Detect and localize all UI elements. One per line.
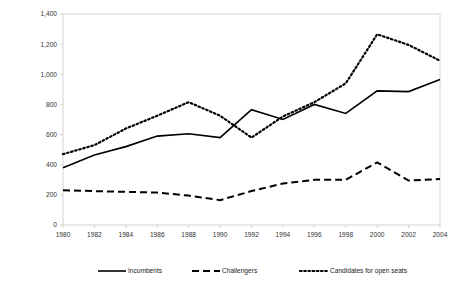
x-tick-label: 1990 [213,231,228,238]
chart-legend: IncumbentsChallengersCandidates for open… [98,267,408,275]
legend-label: Candidates for open seats [330,267,408,275]
y-tick-label: 1,400 [40,10,57,17]
x-tick-label: 1986 [150,231,165,238]
y-tick-label: 400 [46,161,57,168]
x-tick-label: 1998 [338,231,353,238]
y-tick-label: 0 [53,221,57,228]
chart-background [0,0,459,294]
x-tick-label: 1996 [307,231,322,238]
x-tick-label: 2002 [401,231,416,238]
x-tick-label: 1988 [181,231,196,238]
x-tick-label: 2000 [370,231,385,238]
x-tick-label: 1980 [56,231,71,238]
legend-label: Challengers [222,267,258,275]
y-tick-label: 800 [46,101,57,108]
chart-svg: 02004006008001,0001,2001,400 19801982198… [0,0,459,294]
x-tick-label: 1994 [276,231,291,238]
legend-label: Incumbents [128,267,163,274]
x-tick-label: 1992 [244,231,259,238]
y-tick-label: 1,000 [40,71,57,78]
y-tick-label: 600 [46,131,57,138]
x-tick-label: 2004 [433,231,448,238]
x-tick-label: 1982 [87,231,102,238]
chart-container: Thousands of Dollars, Adjusted for Infla… [0,0,459,294]
y-tick-label: 1,200 [40,41,57,48]
x-tick-label: 1984 [118,231,133,238]
y-tick-label: 200 [46,191,57,198]
